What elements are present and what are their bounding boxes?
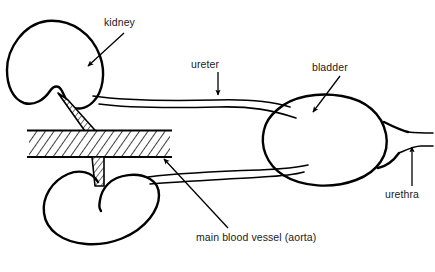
label-aorta: main blood vessel (aorta)	[196, 231, 316, 243]
bladder	[263, 95, 408, 186]
upper-ureter	[93, 96, 296, 118]
leader-kidney	[88, 33, 124, 66]
label-kidney: kidney	[104, 16, 135, 28]
leader-aorta	[164, 159, 228, 228]
label-urethra: urethra	[385, 188, 419, 200]
label-bladder: bladder	[312, 61, 348, 73]
aorta-band	[27, 130, 172, 157]
label-ureter: ureter	[191, 58, 219, 70]
urinary-system-diagram: kidney ureter bladder urethra main blood…	[0, 0, 435, 272]
urethra	[399, 132, 433, 153]
